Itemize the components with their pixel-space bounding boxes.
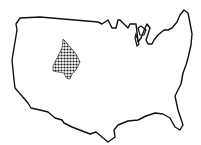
us-map: [0, 0, 201, 145]
us-outline: [12, 10, 192, 142]
